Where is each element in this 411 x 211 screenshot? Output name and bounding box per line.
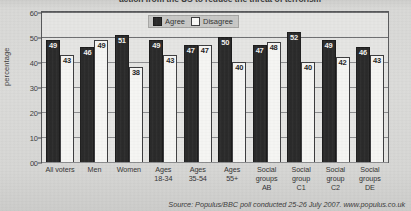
bar-agree: 47 <box>184 45 198 163</box>
x-axis-category-label: SocialgroupsAB <box>252 166 282 200</box>
bar-group: 4643 <box>356 12 384 162</box>
bar-agree: 46 <box>356 47 370 162</box>
y-axis-tick-label: 60 <box>30 9 38 18</box>
y-axis-tick-label-zero: 0 <box>30 159 34 168</box>
legend-swatch-agree-icon <box>153 17 162 26</box>
bar-value-label: 43 <box>61 57 73 65</box>
bar-disagree: 40 <box>301 62 315 162</box>
bar-value-label: 47 <box>254 47 266 55</box>
bar-disagree: 47 <box>198 45 212 163</box>
bar-value-label: 40 <box>302 64 314 72</box>
x-axis-category-label: Ages35-54 <box>183 166 213 200</box>
bar-value-label: 52 <box>288 34 300 42</box>
x-axis-category-label: SocialgroupC1 <box>286 166 316 200</box>
bar-groups: 4943464951384943474750404748524049424643 <box>42 12 388 162</box>
bar-value-label: 40 <box>233 64 245 72</box>
y-axis-tick-label: 40 <box>30 59 38 68</box>
x-axis-category-label: SocialgroupC2 <box>321 166 351 200</box>
bar-value-label: 50 <box>219 39 231 47</box>
bar-disagree: 40 <box>232 62 246 162</box>
source-note: Source: Populus/BBC poll conducted 25-26… <box>168 200 405 209</box>
bar-disagree: 42 <box>336 57 350 162</box>
bar-agree: 52 <box>287 32 301 162</box>
bar-agree: 49 <box>46 40 60 163</box>
bar-value-label: 47 <box>199 47 211 55</box>
bar-agree: 51 <box>115 35 129 163</box>
gridline: 0 <box>42 162 388 163</box>
bar-agree: 49 <box>149 40 163 163</box>
bar-disagree: 48 <box>267 42 281 162</box>
bar-group: 4649 <box>80 12 108 162</box>
x-axis-category-label: Men <box>79 166 109 200</box>
bar-value-label: 46 <box>357 49 369 57</box>
bar-group: 4942 <box>322 12 350 162</box>
x-axis-category-label: Ages18-34 <box>148 166 178 200</box>
bar-value-label: 47 <box>185 47 197 55</box>
bar-group: 4747 <box>184 12 212 162</box>
y-axis-title: percentage <box>2 47 11 86</box>
chart-title-clipped: action from the US to reduce the threat … <box>34 0 406 2</box>
chart-legend: Agree Disagree <box>148 15 239 28</box>
bar-value-label: 43 <box>371 57 383 65</box>
y-axis-tick-label: 20 <box>30 109 38 118</box>
bar-agree: 50 <box>218 37 232 162</box>
bar-value-label: 49 <box>95 42 107 50</box>
bar-value-label: 48 <box>268 44 280 52</box>
legend-swatch-disagree-icon <box>191 17 200 26</box>
bar-value-label: 43 <box>164 57 176 65</box>
bar-group: 4943 <box>149 12 177 162</box>
bar-disagree: 43 <box>60 55 74 163</box>
bar-value-label: 49 <box>150 42 162 50</box>
legend-label-disagree: Disagree <box>203 17 233 26</box>
bar-group: 4943 <box>46 12 74 162</box>
x-axis-category-label: Ages55+ <box>217 166 247 200</box>
bar-group: 5138 <box>115 12 143 162</box>
y-axis-tick-mark <box>38 163 42 164</box>
bar-disagree: 49 <box>94 40 108 163</box>
bar-agree: 46 <box>80 47 94 162</box>
x-axis-category-label: All voters <box>45 166 75 200</box>
bar-value-label: 42 <box>337 59 349 67</box>
bar-value-label: 46 <box>81 49 93 57</box>
x-axis-labels: All votersMenWomenAges18-34Ages35-54Ages… <box>41 166 389 200</box>
bar-group: 4748 <box>253 12 281 162</box>
bar-disagree: 43 <box>163 55 177 163</box>
bar-group: 5040 <box>218 12 246 162</box>
x-axis-category-label: Women <box>114 166 144 200</box>
y-axis-tick-label: 10 <box>30 134 38 143</box>
y-axis-tick-label: 30 <box>30 84 38 93</box>
chart-plot-area: 6050403020100 49434649513849434747504047… <box>41 11 389 163</box>
bar-agree: 47 <box>253 45 267 163</box>
bar-disagree: 43 <box>370 55 384 163</box>
legend-label-agree: Agree <box>165 17 185 26</box>
y-axis-tick-label: 50 <box>30 34 38 43</box>
bar-agree: 49 <box>322 40 336 163</box>
bar-value-label: 51 <box>116 37 128 45</box>
bar-value-label: 38 <box>130 69 142 77</box>
bar-disagree: 38 <box>129 67 143 162</box>
legend-item-agree: Agree <box>153 17 185 26</box>
bar-value-label: 49 <box>47 42 59 50</box>
x-axis-category-label: SocialgroupsDE <box>355 166 385 200</box>
bar-value-label: 49 <box>323 42 335 50</box>
bar-group: 5240 <box>287 12 315 162</box>
legend-item-disagree: Disagree <box>191 17 233 26</box>
